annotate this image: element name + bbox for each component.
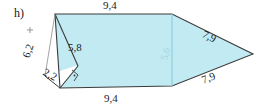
right-angle-dot-icon <box>74 75 76 77</box>
geometry-figure: h) 9,4 9,4 5,8 6,2 2,2 7,9 7,9 5,6 <box>0 0 267 109</box>
label-inner-height: 5,8 <box>68 42 82 53</box>
tick-mark-icon <box>27 27 33 33</box>
label-top-side: 9,4 <box>103 0 117 11</box>
figure-svg <box>0 0 267 109</box>
item-label: h) <box>14 7 24 19</box>
composite-shape-fill <box>55 14 253 88</box>
label-bottom-side: 9,4 <box>104 93 118 104</box>
